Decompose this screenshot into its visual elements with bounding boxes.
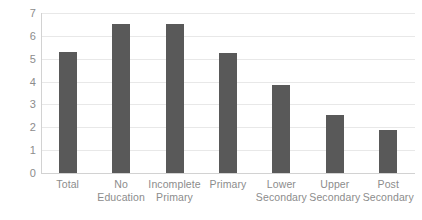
bar[interactable] — [272, 85, 290, 173]
bar[interactable] — [166, 24, 184, 173]
bar-slot — [148, 13, 201, 173]
bar[interactable] — [326, 115, 344, 173]
y-tick-label: 2 — [0, 122, 36, 133]
x-tick-label: Post Secondary — [362, 178, 415, 203]
bars-layer — [41, 13, 415, 173]
y-tick-label: 4 — [0, 76, 36, 87]
bar[interactable] — [379, 130, 397, 173]
x-tick-label: Primary — [201, 178, 254, 191]
bar[interactable] — [219, 53, 237, 173]
x-tick-label: Incomplete Primary — [148, 178, 201, 203]
x-tick-label: No Education — [94, 178, 147, 203]
y-tick-label: 0 — [0, 168, 36, 179]
x-axis-tick-labels: TotalNo EducationIncomplete PrimaryPrima… — [41, 178, 415, 218]
bar-slot — [362, 13, 415, 173]
bar[interactable] — [112, 24, 130, 173]
y-tick-label: 6 — [0, 30, 36, 41]
y-tick-label: 5 — [0, 53, 36, 64]
bar-chart: 01234567 TotalNo EducationIncomplete Pri… — [0, 0, 422, 220]
gridline-0 — [41, 173, 415, 174]
bar-slot — [201, 13, 254, 173]
x-tick-label: Total — [41, 178, 94, 191]
bar-slot — [255, 13, 308, 173]
y-axis-tick-labels: 01234567 — [0, 13, 36, 173]
x-tick-label: Upper Secondary — [308, 178, 361, 203]
y-tick-label: 7 — [0, 8, 36, 19]
bar[interactable] — [59, 52, 77, 173]
y-tick-label: 1 — [0, 145, 36, 156]
x-tick-label: Lower Secondary — [255, 178, 308, 203]
bar-slot — [308, 13, 361, 173]
y-tick-label: 3 — [0, 99, 36, 110]
bar-slot — [41, 13, 94, 173]
bar-slot — [94, 13, 147, 173]
